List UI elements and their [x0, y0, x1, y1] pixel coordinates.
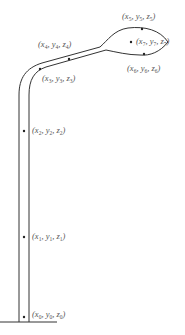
label-point-7: (x7, y7, z7)	[136, 37, 169, 48]
label-point-1: (x1, y1, z1)	[32, 232, 65, 243]
label-point-2: (x2, y2, z2)	[32, 126, 65, 137]
diagram-canvas: (x5, y5, z5) (x4, y4, z4) (x7, y7, z7) (…	[0, 0, 185, 335]
label-point-0: (x0, y0, z0)	[32, 310, 65, 321]
label-point-4: (x4, y4, z4)	[38, 40, 71, 51]
point-0	[23, 316, 25, 318]
point-5	[141, 28, 143, 30]
point-1	[23, 236, 25, 238]
label-point-3: (x3, y3, z3)	[42, 74, 75, 85]
point-2	[23, 130, 25, 132]
point-3	[39, 68, 41, 70]
point-4	[68, 58, 70, 60]
label-point-6: (x6, y6, z6)	[127, 64, 160, 75]
lamp-path-diagram	[0, 0, 185, 335]
point-7	[130, 41, 132, 43]
label-point-5: (x5, y5, z5)	[122, 12, 155, 23]
point-6	[143, 53, 145, 55]
